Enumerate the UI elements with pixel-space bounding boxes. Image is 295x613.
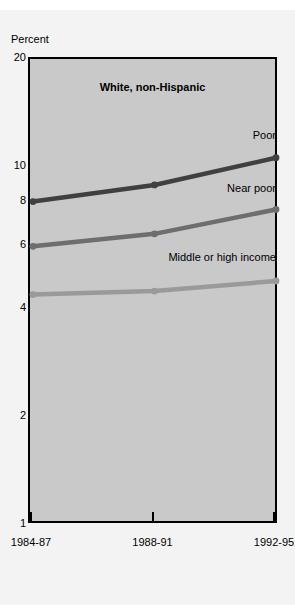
x-tick-label-1992-95: 1992-95 [254,536,294,548]
data-point [151,182,158,189]
x-tick-mark-1984-87 [30,512,32,521]
series-line [33,281,276,295]
series-poor [30,154,280,205]
y-axis: 201086421 [0,0,26,613]
y-tick-label-8: 8 [2,194,26,206]
series-near-poor [30,206,280,250]
x-tick-mark-1988-91 [152,512,154,521]
series-lines [2,2,295,613]
data-point [151,230,158,237]
plot-area: White, non-Hispanic [28,57,277,523]
chart-figure: Percent 201086421 1984-871988-911992-95 … [0,0,295,613]
y-tick-label-10: 10 [2,159,26,171]
series-label-middle-or-high-income: Middle or high income [168,251,276,263]
y-tick-label-6: 6 [2,238,26,250]
data-point [30,291,37,298]
series-line [33,210,276,247]
y-tick-label-1: 1 [2,517,26,529]
series-label-poor: Poor [253,129,276,141]
series-label-near-poor: Near poor [227,182,276,194]
x-tick-mark-1992-95 [273,512,275,521]
y-tick-label-4: 4 [2,301,26,313]
x-tick-label-1984-87: 1984-87 [11,536,51,548]
series-middle-or-high-income [30,278,280,298]
data-point [151,288,158,295]
x-tick-label-1988-91: 1988-91 [132,536,172,548]
data-point [30,198,37,205]
clipped-header-text [0,0,295,9]
series-line [33,158,276,202]
y-tick-label-2: 2 [2,409,26,421]
y-tick-label-20: 20 [2,51,26,63]
plot-inner [30,59,275,521]
data-point [30,243,37,250]
